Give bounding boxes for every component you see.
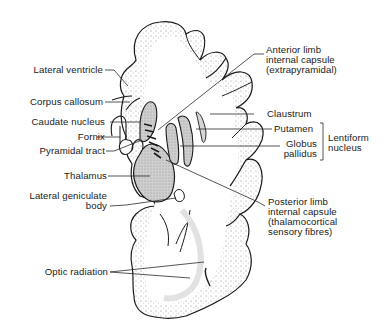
label-pyramidal-tract: Pyramidal tract [40, 146, 105, 157]
label-putamen: Putamen [274, 124, 313, 135]
label-corpus-callosum: Corpus callosum [30, 97, 103, 108]
label-lateral-ventricle: Lateral ventricle [34, 65, 103, 76]
label-pallidus: pallidus [284, 149, 317, 160]
label-claustrum: Claustrum [267, 109, 312, 120]
label-optic-radiation: Optic radiation [45, 267, 108, 278]
label-posterior-limb-line4: sensory fibres) [268, 227, 332, 238]
brain-section-diagram [0, 0, 391, 332]
label-lentiform-line2: nucleus [328, 143, 362, 154]
label-thalamus: Thalamus [64, 171, 107, 182]
lateral-geniculate-body [174, 190, 184, 202]
label-caudate-nucleus: Caudate nucleus [31, 117, 105, 128]
label-anterior-limb-line3: (extrapyramidal) [266, 65, 337, 76]
label-fornix: Fornix [78, 132, 105, 143]
label-lateral-geniculate-line2: body [86, 201, 107, 212]
